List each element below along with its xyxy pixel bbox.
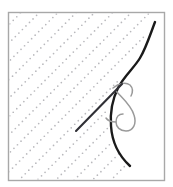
hatch-dot xyxy=(139,40,141,42)
hatch-dot xyxy=(106,92,108,94)
hatch-dot xyxy=(32,110,34,112)
hatch-dot xyxy=(21,176,23,178)
hatch-dot xyxy=(88,109,90,111)
hatch-dot xyxy=(83,41,85,43)
hatch-dot xyxy=(53,145,55,147)
hatch-dot xyxy=(85,57,87,59)
hatch-dot xyxy=(18,124,20,126)
hatch-dot xyxy=(77,176,79,178)
hatch-dot xyxy=(55,161,57,163)
hatch-dot xyxy=(97,82,99,84)
hatch-dot xyxy=(19,104,21,106)
hatch-dot xyxy=(119,41,121,43)
hatch-dot xyxy=(57,177,59,179)
hatch-dot xyxy=(15,128,17,130)
hatch-dot xyxy=(116,45,118,47)
hatch-dot xyxy=(15,36,17,38)
hatch-dot xyxy=(113,176,115,178)
hatch-dot xyxy=(100,171,102,173)
hatch-dot xyxy=(49,56,51,58)
hatch-dot xyxy=(80,136,82,138)
hatch-dot xyxy=(60,174,62,176)
hatch-dot xyxy=(109,88,111,90)
hatch-dot xyxy=(85,21,87,23)
hatch-dot xyxy=(75,68,77,70)
hatch-dot xyxy=(124,18,126,20)
hatch-dot xyxy=(121,22,123,24)
hatch-dot xyxy=(87,129,89,131)
hatch-dot xyxy=(45,24,47,26)
hatch-dot xyxy=(81,24,83,26)
hatch-dot xyxy=(38,31,40,33)
hatch-dot xyxy=(16,108,18,110)
hatch-dot xyxy=(99,135,101,137)
hatch-dot xyxy=(41,27,43,29)
hatch-dot xyxy=(24,81,26,83)
hatch-dot xyxy=(47,40,49,42)
hatch-dot xyxy=(15,72,17,74)
hatch-dot xyxy=(52,109,54,111)
hatch-dot xyxy=(46,96,48,98)
hatch-dot xyxy=(56,105,58,107)
hatch-dot xyxy=(64,78,66,80)
hatch-dot xyxy=(12,111,14,113)
hatch-dot xyxy=(41,175,43,177)
hatch-dot xyxy=(114,65,116,67)
hatch-dot xyxy=(10,59,12,61)
hatch-dot xyxy=(68,111,70,113)
hatch-dot xyxy=(106,128,108,130)
hatch-dot xyxy=(142,36,144,38)
hatch-dot xyxy=(77,84,79,86)
hatch-dot xyxy=(48,168,50,170)
hatch-dot xyxy=(48,112,50,114)
hatch-dot xyxy=(48,20,50,22)
hatch-dot xyxy=(70,91,72,93)
hatch-dot xyxy=(87,73,89,75)
hatch-dot xyxy=(108,16,110,18)
hatch-dot xyxy=(93,86,95,88)
hatch-dot xyxy=(10,151,12,153)
hatch-dot xyxy=(72,107,74,109)
hatch-dot xyxy=(54,125,56,127)
hatch-dot xyxy=(92,14,94,16)
hatch-dot xyxy=(26,153,28,155)
hatch-dot xyxy=(88,17,90,19)
hatch-dot xyxy=(68,19,70,21)
hatch-dot xyxy=(52,17,54,19)
hatch-dot xyxy=(65,114,67,116)
hatch-dot xyxy=(53,89,55,91)
hatch-dot xyxy=(29,22,31,24)
hatch-dot xyxy=(59,101,61,103)
hatch-dot xyxy=(117,25,119,27)
hatch-dot xyxy=(30,94,32,96)
hatch-dot xyxy=(103,131,105,133)
hatch-dot xyxy=(74,31,76,33)
hatch-dot xyxy=(13,56,15,58)
hatch-dot xyxy=(36,106,38,108)
hatch-dot xyxy=(94,30,96,32)
hatch-dot xyxy=(18,32,20,34)
hatch-dot xyxy=(85,149,87,151)
hatch-dot xyxy=(70,35,72,37)
hatch-dot xyxy=(44,171,46,173)
hatch-dot xyxy=(39,67,41,69)
hatch-dot xyxy=(58,157,60,159)
hatch-dot xyxy=(123,38,125,40)
hatch-dot xyxy=(104,75,106,77)
hatch-dot xyxy=(39,159,41,161)
hatch-dot xyxy=(77,120,79,122)
hatch-dot xyxy=(31,74,33,76)
hatch-dot xyxy=(97,118,99,120)
hatch-dot xyxy=(94,66,96,68)
hatch-dot xyxy=(90,34,92,36)
hatch-dot xyxy=(112,48,114,50)
hatch-dot xyxy=(10,95,12,97)
figure-border xyxy=(9,13,165,181)
hatch-dot xyxy=(77,28,79,30)
hatch-dot xyxy=(97,27,99,29)
hatch-dot xyxy=(31,130,33,132)
hatch-dot xyxy=(104,167,106,169)
hatch-dot xyxy=(110,32,112,34)
hatch-dot xyxy=(95,102,97,104)
hatch-dot xyxy=(48,76,50,78)
